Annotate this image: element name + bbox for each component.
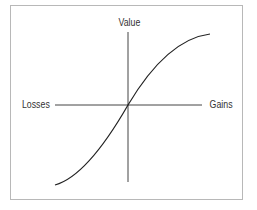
gains-label: Gains	[210, 99, 233, 110]
value-curve	[55, 34, 210, 185]
losses-label: Losses	[22, 99, 50, 110]
y-axis-label: Value	[118, 17, 140, 28]
